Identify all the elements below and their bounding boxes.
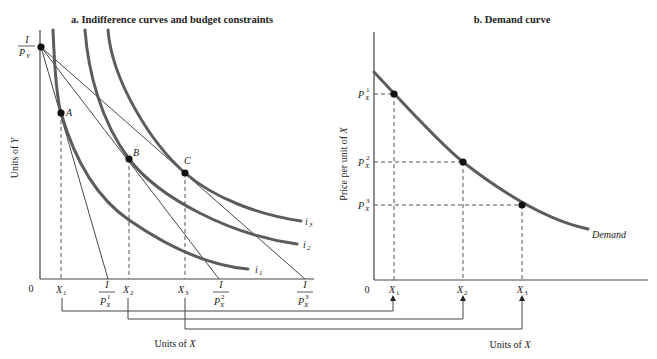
denominator-sub: X <box>219 301 225 309</box>
point-label-a: A <box>65 107 73 118</box>
panel-a-origin-label: 0 <box>29 283 34 294</box>
price-label-2: P 2 X <box>357 154 370 170</box>
y-intercept-numerator: I <box>24 34 29 45</box>
numerator: I <box>302 279 307 290</box>
curve-label-sub: 3 <box>308 221 313 229</box>
demand-point-2 <box>459 158 466 165</box>
y-intercept-point <box>37 43 44 50</box>
x-tick-base: X <box>55 284 63 295</box>
x-tick-base: X <box>388 284 396 295</box>
equilibrium-point-a <box>57 109 64 116</box>
x-axis-label-variable: X <box>523 339 531 350</box>
denominator-sub: X <box>303 301 309 309</box>
x-tick-sub: 3 <box>185 289 189 297</box>
background <box>0 0 657 359</box>
y-axis-label-prefix: Price per unit of <box>338 133 349 200</box>
x-axis-label-variable: X <box>188 338 196 349</box>
figure: a. Indifference curves and budget constr… <box>0 0 657 359</box>
price-sub: X <box>364 94 370 102</box>
panel-b-title: b. Demand curve <box>474 14 551 25</box>
price-label-1: P 1 X <box>357 86 370 102</box>
numerator: I <box>218 279 223 290</box>
x-tick-base: X <box>516 284 524 295</box>
price-sup: 2 <box>366 154 370 162</box>
x-axis-label-prefix: Units of <box>489 339 524 350</box>
curve-label-base: i <box>303 239 306 250</box>
point-label-c: C <box>184 155 191 166</box>
x-tick-base: X <box>122 284 130 295</box>
curve-label-base: i <box>255 264 258 275</box>
x-tick-sub: 1 <box>396 289 400 297</box>
x-tick-sub: 2 <box>130 289 134 297</box>
price-sub: X <box>364 205 370 213</box>
panel-a-title: a. Indifference curves and budget constr… <box>71 14 273 25</box>
price-sub: X <box>364 162 370 170</box>
x-tick-sub: 3 <box>524 289 528 297</box>
demand-curve-label: Demand <box>591 229 627 240</box>
panel-a-x-axis-label: Units of X <box>154 338 196 349</box>
y-axis-label-variable: X <box>338 126 349 134</box>
demand-point-1 <box>390 90 397 97</box>
denominator-sub: X <box>105 301 111 309</box>
price-sup: 3 <box>366 197 370 205</box>
panel-b-origin-label: 0 <box>365 284 370 295</box>
price-sup: 1 <box>366 86 370 94</box>
panel-b-y-axis-label: Price per unit of X <box>338 126 349 200</box>
x-tick-base: X <box>456 284 464 295</box>
x-tick-sub: 2 <box>464 289 468 297</box>
price-base: P <box>357 157 364 168</box>
x-tick-base: X <box>177 284 185 295</box>
equilibrium-point-b <box>125 155 132 162</box>
price-base: P <box>357 200 364 211</box>
denominator-sup: 3 <box>305 293 309 301</box>
denominator-sup: 1 <box>107 293 111 301</box>
curve-label-sub: 1 <box>259 269 263 277</box>
curve-label-base: i <box>305 216 308 227</box>
y-axis-label-prefix: Units of <box>9 143 20 178</box>
x-axis-label-prefix: Units of <box>154 338 189 349</box>
numerator: I <box>104 279 109 290</box>
demand-point-3 <box>518 201 525 208</box>
point-label-b: B <box>133 147 139 158</box>
panel-b-x-axis-label: Units of X <box>489 339 531 350</box>
denominator-sup: 2 <box>221 293 225 301</box>
price-base: P <box>357 89 364 100</box>
y-intercept-denominator: P <box>18 47 25 58</box>
price-label-3: P 3 X <box>357 197 370 213</box>
x-tick-sub: 1 <box>63 289 67 297</box>
curve-label-sub: 2 <box>307 244 311 252</box>
panel-a-y-axis-label: Units of Y <box>9 136 20 178</box>
equilibrium-point-c <box>181 169 188 176</box>
